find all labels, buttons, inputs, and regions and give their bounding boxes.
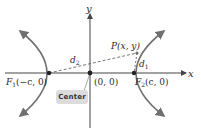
y-axis-label: y (85, 3, 92, 14)
center-badge: Center (56, 90, 88, 104)
focus1-label: F1(−c, 0) (5, 77, 47, 88)
d2-label: d2 (70, 55, 80, 66)
d1-label: d1 (139, 59, 149, 70)
diagram-canvas: y x F1(−c, 0) (0, 0) F2(c, 0) P(x, y) d2… (0, 0, 201, 132)
d2-segment (49, 53, 137, 73)
focus2-label: F2(c, 0) (134, 77, 169, 88)
point-p (135, 51, 138, 54)
focus1-point (47, 71, 51, 75)
point-p-label: P(x, y) (110, 41, 140, 51)
x-axis-label: x (188, 68, 194, 79)
center-point (88, 71, 93, 76)
center-callout-line (84, 73, 90, 91)
hyperbola-diagram: y x F1(−c, 0) (0, 0) F2(c, 0) P(x, y) d2… (0, 0, 201, 132)
focus2-point (132, 71, 136, 75)
origin-label: (0, 0) (94, 77, 118, 87)
